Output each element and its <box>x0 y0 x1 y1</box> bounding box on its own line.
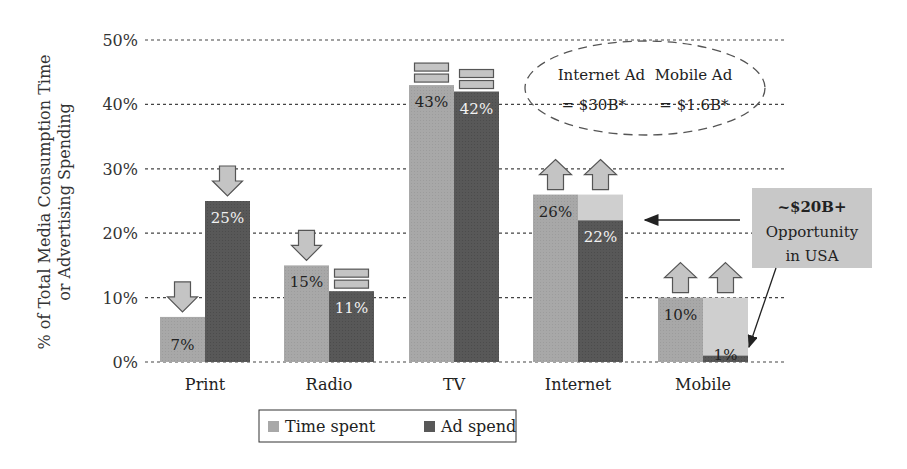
equal-sign-icon-bar <box>415 63 449 71</box>
y-axis-title-line2: or Advertising Spending <box>55 103 74 301</box>
legend: Time spent Ad spend <box>259 410 516 442</box>
equal-sign-icon-bar <box>460 81 494 89</box>
x-category-label: TV <box>443 375 466 394</box>
legend-label-ad-spend: Ad spend <box>440 417 516 436</box>
x-axis-categories: PrintRadioTVInternetMobile <box>185 375 731 394</box>
dashed-ellipse <box>525 41 765 135</box>
opportunity-line1: ~$20B+ <box>777 198 846 216</box>
y-tick-label: 50% <box>102 31 138 50</box>
bar-time-spent <box>409 85 454 362</box>
ellipse-line1: Internet Ad Mobile Ad <box>558 66 733 84</box>
arrow-to-mobile <box>749 268 776 347</box>
bar-ad-spend <box>454 92 499 362</box>
data-label-time-spent: 7% <box>171 336 195 354</box>
x-category-label: Print <box>185 375 226 394</box>
y-axis-ticks: 0%10%20%30%40%50% <box>102 31 138 372</box>
data-label-time-spent: 15% <box>290 273 323 291</box>
equal-sign-icon-bar <box>415 74 449 82</box>
down-arrow-icon <box>168 282 198 312</box>
opportunity-line2: Opportunity <box>766 223 859 241</box>
up-arrow-icon <box>585 160 617 190</box>
legend-label-time-spent: Time spent <box>285 417 376 436</box>
data-label-time-spent: 10% <box>664 306 697 324</box>
legend-swatch-ad-spend <box>424 421 435 432</box>
x-category-label: Radio <box>306 375 353 394</box>
equal-sign-icon-bar <box>460 70 494 78</box>
y-tick-label: 10% <box>102 289 138 308</box>
y-tick-label: 20% <box>102 224 138 243</box>
data-label-time-spent: 26% <box>539 203 572 221</box>
data-label-ad-spend: 22% <box>584 228 617 246</box>
down-arrow-icon <box>213 166 243 196</box>
up-arrow-icon <box>665 263 697 293</box>
up-arrow-icon <box>540 160 572 190</box>
data-label-time-spent: 43% <box>415 93 448 111</box>
data-label-ad-spend: 42% <box>460 100 493 118</box>
data-label-ad-spend: 25% <box>211 209 244 227</box>
equal-sign-icon-bar <box>335 280 369 288</box>
y-axis-title-line1: % of Total Media Consumption Time <box>35 54 54 349</box>
opportunity-line3: in USA <box>786 247 839 265</box>
down-arrow-icon <box>292 230 322 260</box>
bars: 7%25%15%11%43%42%26%22%10%1% <box>160 85 748 364</box>
y-tick-label: 30% <box>102 160 138 179</box>
x-category-label: Internet <box>545 375 612 394</box>
y-tick-label: 0% <box>113 353 138 372</box>
y-tick-label: 40% <box>102 95 138 114</box>
y-axis-title: % of Total Media Consumption Time or Adv… <box>35 54 74 349</box>
up-arrow-icon <box>710 263 742 293</box>
gap-fill-bar <box>578 195 623 221</box>
data-label-ad-spend: 1% <box>714 346 738 364</box>
ad-spend-ellipse-annotation: Internet Ad Mobile Ad = $30B* = $1.6B* <box>525 41 765 135</box>
x-category-label: Mobile <box>675 375 731 394</box>
chart: % of Total Media Consumption Time or Adv… <box>0 0 907 469</box>
equal-sign-icon-bar <box>335 269 369 277</box>
data-label-ad-spend: 11% <box>335 299 368 317</box>
legend-swatch-time-spent <box>268 421 279 432</box>
ellipse-line2: = $30B* = $1.6B* <box>561 96 729 114</box>
